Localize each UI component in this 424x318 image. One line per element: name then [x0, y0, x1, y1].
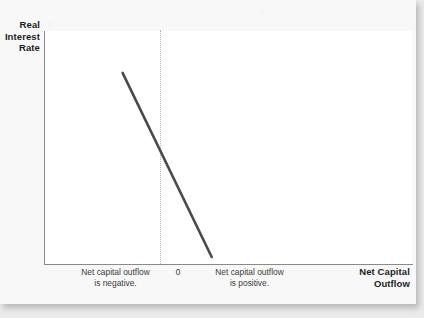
x-axis-title: Net Capital Outflow: [320, 266, 410, 289]
x-axis-title-line-2: Outflow: [320, 278, 410, 290]
y-axis-title-line-3: Rate: [0, 42, 40, 54]
figure-card: Real Interest Rate Net Capital Outflow N…: [0, 0, 416, 304]
x-axis-title-line-1: Net Capital: [320, 266, 410, 278]
annotation-positive-outflow-line-2: is positive.: [192, 278, 307, 289]
y-axis-title-line-1: Real: [0, 19, 40, 31]
annotation-positive-outflow-line-1: Net capital outflow: [192, 267, 307, 278]
y-axis-line: [44, 31, 45, 265]
y-axis-title-line-2: Interest: [0, 31, 40, 43]
zero-reference-dotted-line: [160, 30, 161, 264]
annotation-negative-outflow: Net capital outflow is negative.: [58, 267, 173, 289]
x-axis-zero-tick-label: 0: [168, 267, 188, 278]
annotation-positive-outflow: Net capital outflow is positive.: [192, 267, 307, 289]
y-axis-title: Real Interest Rate: [0, 19, 40, 54]
annotation-negative-outflow-line-1: Net capital outflow: [58, 267, 173, 278]
x-axis-line: [44, 264, 413, 265]
annotation-negative-outflow-line-2: is negative.: [58, 278, 173, 289]
plot-area: [45, 31, 412, 264]
